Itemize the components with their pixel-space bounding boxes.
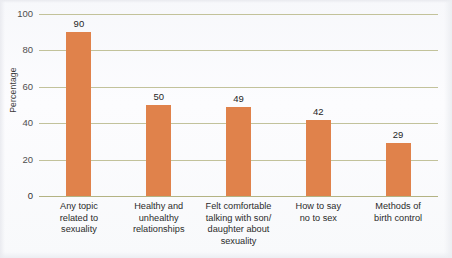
category-label-line: sexuality	[193, 236, 285, 248]
y-tick-label-60: 60	[22, 82, 33, 92]
gridline-100: 100	[39, 14, 438, 15]
category-label-line: daughter about	[193, 224, 285, 236]
category-label-line: sexuality	[33, 224, 125, 236]
y-tick-label-80: 80	[22, 46, 33, 56]
category-label-line: Felt comfortable	[193, 201, 285, 213]
bar[interactable]	[66, 32, 91, 196]
gridline-0: 0	[39, 196, 438, 197]
category-label-line: birth control	[352, 213, 444, 225]
bar[interactable]	[226, 107, 251, 196]
gridline-60: 60	[39, 87, 438, 88]
page-edge-left	[0, 0, 5, 258]
bar[interactable]	[306, 120, 331, 196]
category-label-line: related to	[33, 213, 125, 225]
category-label: How to sayno to sex	[272, 201, 364, 224]
category-label-line: Methods of	[352, 201, 444, 213]
category-label: Healthy andunhealthyrelationships	[113, 201, 205, 236]
category-label-line: no to sex	[272, 213, 364, 225]
bar[interactable]	[386, 143, 411, 196]
y-tick-label-100: 100	[17, 9, 33, 19]
y-axis-title: Percentage	[8, 50, 18, 130]
category-label-line: Any topic	[33, 201, 125, 213]
gridline-80: 80	[39, 50, 438, 51]
category-label-line: relationships	[113, 224, 205, 236]
page-edge-right	[444, 0, 452, 258]
bar-value-label: 29	[375, 130, 421, 140]
category-label-line: Healthy and	[113, 201, 205, 213]
bar-chart: Percentage 020406080100 9050494229 Any t…	[0, 0, 452, 258]
y-tick-label-40: 40	[22, 118, 33, 128]
bar-value-label: 42	[295, 107, 341, 117]
category-label: Methods ofbirth control	[352, 201, 444, 224]
page-edge-top	[0, 0, 452, 3]
category-label-line: unhealthy	[113, 213, 205, 225]
category-label: Any topicrelated tosexuality	[33, 201, 125, 236]
bar-value-label: 90	[56, 19, 102, 29]
category-label: Felt comfortabletalking with son/daughte…	[193, 201, 285, 247]
plot-area: 020406080100 9050494229	[39, 14, 438, 196]
y-tick-label-0: 0	[28, 191, 33, 201]
category-label-line: How to say	[272, 201, 364, 213]
x-axis-category-labels: Any topicrelated tosexualityHealthy andu…	[39, 201, 438, 257]
category-label-line: talking with son/	[193, 213, 285, 225]
bar-value-label: 50	[136, 92, 182, 102]
bar[interactable]	[146, 105, 171, 196]
y-tick-label-20: 20	[22, 155, 33, 165]
bar-value-label: 49	[216, 94, 262, 104]
